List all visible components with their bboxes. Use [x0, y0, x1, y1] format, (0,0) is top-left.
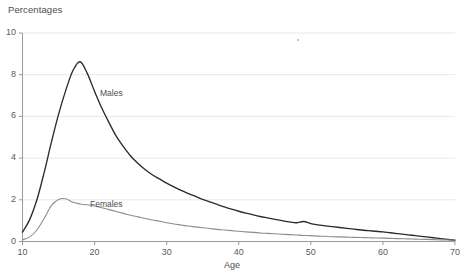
series-label-males: Males: [100, 88, 123, 98]
y-axis-ticks: [19, 33, 23, 242]
x-tick-label: 50: [299, 247, 323, 257]
x-tick-label: 20: [83, 247, 107, 257]
series-line-females: [23, 198, 456, 240]
y-tick-label: 2: [0, 194, 16, 204]
x-tick-label: 40: [227, 247, 251, 257]
x-tick-label: 60: [371, 247, 395, 257]
x-tick-label: 70: [443, 247, 467, 257]
x-axis-title: Age: [202, 260, 262, 270]
plot-area: [0, 0, 467, 276]
y-tick-label: 8: [0, 69, 16, 79]
image-artifact-speck: [297, 39, 299, 41]
y-tick-label: 10: [0, 27, 16, 37]
x-axis-ticks: [23, 242, 456, 246]
y-tick-label: 4: [0, 152, 16, 162]
gridlines: [23, 33, 456, 200]
chart-container: Percentages 0246810 10203040506070 Age M…: [0, 0, 467, 276]
series-label-females: Females: [90, 199, 123, 209]
y-tick-label: 0: [0, 236, 16, 246]
axis-lines: [22, 33, 455, 242]
y-tick-label: 6: [0, 110, 16, 120]
data-series-group: [23, 62, 456, 241]
x-tick-label: 30: [155, 247, 179, 257]
x-tick-label: 10: [11, 247, 35, 257]
series-line-males: [23, 62, 456, 241]
